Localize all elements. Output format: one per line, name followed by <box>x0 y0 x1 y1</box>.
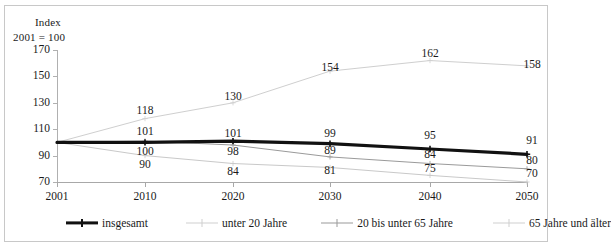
x-axis-tick <box>330 182 331 187</box>
data-value-label: 70 <box>512 167 552 179</box>
x-axis-label: 2030 <box>300 190 360 202</box>
x-axis-line <box>57 182 527 183</box>
legend-label: 65 Jahre und älter <box>528 217 611 229</box>
data-value-label: 154 <box>310 61 350 73</box>
x-axis-tick <box>57 182 58 187</box>
x-axis-label: 2010 <box>115 190 175 202</box>
legend-label: 20 bis unter 65 Jahre <box>356 217 453 229</box>
y-axis-label: 90 <box>0 149 50 161</box>
legend-swatch-icon <box>321 217 353 229</box>
x-axis-tick <box>145 182 146 187</box>
x-axis-label: 2001 <box>27 190 87 202</box>
legend-label: unter 20 Jahre <box>221 217 287 229</box>
data-value-label: 95 <box>410 129 450 141</box>
series-marker <box>142 116 147 121</box>
data-value-label: 84 <box>410 148 450 160</box>
y-axis-label: 150 <box>0 69 50 81</box>
data-value-label: 162 <box>410 47 450 59</box>
y-axis-label: 70 <box>0 175 50 187</box>
legend-item[interactable]: unter 20 Jahre <box>186 217 287 229</box>
index-base-note: 2001 = 100 <box>13 31 65 43</box>
data-value-label: 101 <box>125 125 165 137</box>
data-value-label: 91 <box>512 134 552 146</box>
y-axis-label: 130 <box>0 96 50 108</box>
data-value-label: 80 <box>512 154 552 166</box>
x-axis-label: 2020 <box>203 190 263 202</box>
data-value-label: 89 <box>310 144 350 156</box>
x-axis-tick <box>233 182 234 187</box>
data-value-label: 98 <box>213 145 253 157</box>
x-axis-label: 2050 <box>497 190 557 202</box>
data-value-label: 118 <box>125 104 165 116</box>
data-value-label: 100 <box>125 145 165 157</box>
legend-swatch-icon <box>493 217 525 229</box>
data-value-label: 90 <box>125 158 165 170</box>
legend-label: insgesamt <box>101 217 148 229</box>
data-value-label: 99 <box>310 127 350 139</box>
data-value-label: 158 <box>512 58 552 70</box>
chart-legend: insgesamtunter 20 Jahre20 bis unter 65 J… <box>4 212 548 234</box>
y-axis-label: 170 <box>0 43 50 55</box>
legend-item[interactable]: 20 bis unter 65 Jahre <box>321 217 453 229</box>
x-axis-label: 2040 <box>400 190 460 202</box>
legend-item[interactable]: insgesamt <box>66 217 148 229</box>
data-value-label: 84 <box>213 165 253 177</box>
data-value-label: 101 <box>213 127 253 139</box>
legend-item[interactable]: 65 Jahre und älter <box>493 217 611 229</box>
data-value-label: 75 <box>410 162 450 174</box>
legend-swatch-icon <box>186 217 218 229</box>
legend-swatch-icon <box>66 217 98 229</box>
y-axis-title: Index <box>35 16 61 28</box>
data-value-label: 81 <box>310 164 350 176</box>
y-axis-label: 110 <box>0 122 50 134</box>
x-axis-tick <box>430 182 431 187</box>
data-value-label: 130 <box>213 90 253 102</box>
